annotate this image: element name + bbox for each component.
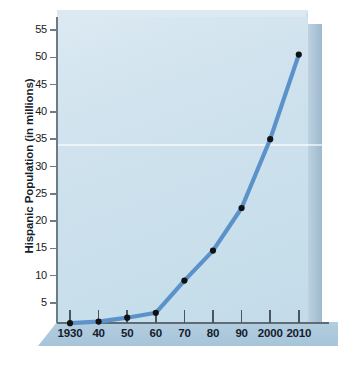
data-point — [153, 310, 159, 316]
data-point — [124, 315, 130, 321]
data-point — [67, 320, 73, 326]
chart-container: 555045403530252015105 193040506070809020… — [0, 0, 342, 365]
data-point — [239, 205, 245, 211]
series-layer — [0, 0, 342, 365]
data-point — [181, 278, 187, 284]
data-markers — [67, 52, 302, 327]
data-point — [267, 136, 273, 142]
data-point — [96, 319, 102, 325]
data-point — [210, 248, 216, 254]
data-point — [296, 52, 302, 58]
